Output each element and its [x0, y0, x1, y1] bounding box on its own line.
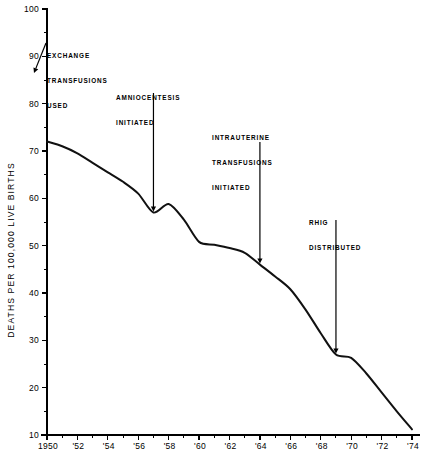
x-axis — [41, 435, 420, 440]
annotation-intrauterine-transfusions: INTRAUTERINE TRANSFUSIONS INITIATED — [212, 118, 273, 208]
annotation-line: DISTRIBUTED — [309, 244, 361, 252]
y-tick-label: 60 — [29, 193, 39, 203]
annotation-line: USED — [47, 102, 108, 110]
x-tick-label: '56 — [133, 441, 145, 451]
x-tick-label: '58 — [164, 441, 176, 451]
x-tick-label: '68 — [316, 441, 328, 451]
y-tick-label: 40 — [29, 288, 39, 298]
x-tick-label: '52 — [72, 441, 84, 451]
annotation-rhig-distributed: RHIG DISTRIBUTED — [309, 203, 361, 269]
x-tick-label: '70 — [346, 441, 358, 451]
x-tick-label: '66 — [285, 441, 297, 451]
y-tick-label: 90 — [29, 51, 39, 61]
x-tick-label: '54 — [103, 441, 115, 451]
annotation-exchange-transfusions: EXCHANGE TRANSFUSIONS USED — [47, 36, 108, 126]
annotation-line: TRANSFUSIONS — [212, 159, 273, 167]
annotation-line: RHIG — [309, 219, 361, 227]
annotation-line: AMNIOCENTESIS — [116, 94, 180, 102]
annotation-line: TRANSFUSIONS — [47, 77, 108, 85]
annotation-amniocentesis: AMNIOCENTESIS INITIATED — [116, 78, 180, 144]
annotation-line: INITIATED — [116, 119, 180, 127]
x-tick-label: '60 — [194, 441, 206, 451]
x-axis-tick-labels: 1950'52'54'56'58'60'62'64'66'68'70'72'74 — [38, 441, 419, 451]
x-tick-label: '72 — [377, 441, 389, 451]
x-tick-label: '74 — [407, 441, 419, 451]
annotation-line: EXCHANGE — [47, 52, 108, 60]
y-tick-label: 50 — [29, 241, 39, 251]
x-tick-label: '64 — [255, 441, 267, 451]
y-axis-title-text: DEATHS PER 100,000 LIVE BIRTHS — [6, 162, 16, 338]
annotation-line: INTRAUTERINE — [212, 134, 273, 142]
y-tick-label: 30 — [29, 335, 39, 345]
chart-figure: 100908070605040302010 1950'52'54'56'58'6… — [0, 0, 427, 461]
y-axis-title: DEATHS PER 100,000 LIVE BIRTHS — [6, 162, 16, 338]
y-tick-label: 20 — [29, 383, 39, 393]
y-tick-label: 80 — [29, 99, 39, 109]
annotation-line: INITIATED — [212, 184, 273, 192]
y-tick-label: 10 — [29, 430, 39, 440]
x-tick-label: '62 — [225, 441, 237, 451]
y-tick-label: 100 — [24, 4, 39, 14]
y-tick-label: 70 — [29, 146, 39, 156]
x-tick-label: 1950 — [38, 441, 58, 451]
